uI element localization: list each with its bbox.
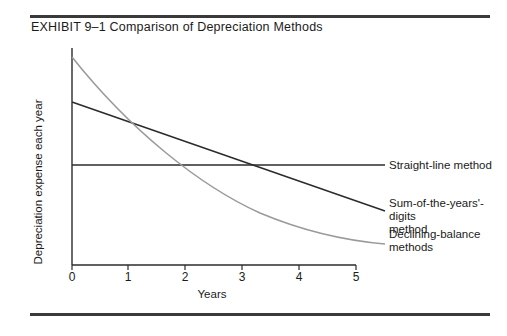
series-label-declining-balance: Declining-balance methods	[389, 228, 480, 254]
x-tick-label-4: 4	[289, 270, 309, 284]
series-line-sum-of-years-digits	[72, 102, 385, 211]
series-label-straight-line: Straight-line method	[389, 159, 492, 172]
y-axis-label: Depreciation expense each year	[32, 82, 44, 282]
x-axis-ticks	[72, 265, 356, 270]
series-line-declining-balance	[72, 57, 385, 244]
x-tick-label-5: 5	[346, 270, 366, 284]
x-tick-label-2: 2	[175, 270, 195, 284]
x-tick-label-1: 1	[118, 270, 138, 284]
bottom-rule	[30, 313, 490, 316]
x-tick-label-3: 3	[232, 270, 252, 284]
x-axis-label: Years	[72, 288, 352, 300]
exhibit-figure: EXHIBIT 9–1 Comparison of Depreciation M…	[0, 0, 507, 336]
x-tick-label-0: 0	[62, 270, 82, 284]
